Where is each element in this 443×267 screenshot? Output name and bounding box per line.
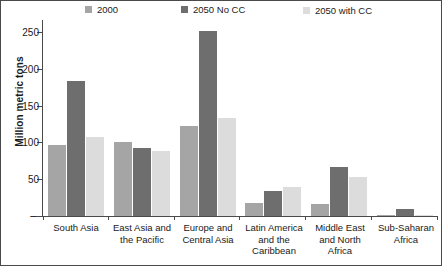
bar[interactable] bbox=[311, 204, 329, 216]
x-axis-label-4: Middle Eastand NorthAfrica bbox=[307, 222, 373, 266]
x-axis-label-5: Sub-SaharanAfrica bbox=[373, 222, 439, 266]
bar[interactable] bbox=[330, 167, 348, 216]
y-tick-label: 50 bbox=[28, 174, 39, 185]
legend-label-2050-no-cc: 2050 No CC bbox=[193, 4, 245, 15]
bar[interactable] bbox=[114, 142, 132, 216]
x-tick-mark bbox=[174, 216, 175, 220]
x-tick-mark bbox=[437, 216, 438, 220]
x-tick-mark bbox=[43, 216, 44, 220]
bar[interactable] bbox=[377, 215, 395, 216]
y-tick-label: 250 bbox=[22, 27, 39, 38]
legend-swatch-2000 bbox=[85, 6, 92, 13]
legend-swatch-2050-no-cc bbox=[181, 6, 188, 13]
bar[interactable] bbox=[133, 148, 151, 216]
bar[interactable] bbox=[86, 137, 104, 216]
bar-groups bbox=[43, 20, 438, 216]
x-tick-mark bbox=[371, 216, 372, 220]
legend-item-2050-with-cc[interactable]: 2050 with CC bbox=[303, 5, 372, 16]
bar-group bbox=[372, 20, 438, 216]
x-axis-label-3: Latin Americaand theCaribbean bbox=[241, 222, 307, 266]
bar-group bbox=[43, 20, 109, 216]
bar[interactable] bbox=[218, 118, 236, 216]
y-tick-label: 150 bbox=[22, 100, 39, 111]
bar[interactable] bbox=[67, 81, 85, 216]
bar[interactable] bbox=[283, 187, 301, 216]
bar[interactable] bbox=[396, 209, 414, 216]
bar-group bbox=[240, 20, 306, 216]
x-axis-labels: South AsiaEast Asia andthe PacificEurope… bbox=[43, 222, 439, 266]
plot-area: –50100150200250 bbox=[42, 20, 438, 217]
bar[interactable] bbox=[415, 215, 433, 216]
bar[interactable] bbox=[180, 126, 198, 217]
legend-item-2000[interactable]: 2000 bbox=[85, 4, 118, 15]
bar[interactable] bbox=[199, 31, 217, 216]
x-axis-label-1: East Asia andthe Pacific bbox=[109, 222, 175, 266]
bar[interactable] bbox=[245, 203, 263, 216]
legend-item-2050-no-cc[interactable]: 2050 No CC bbox=[181, 4, 245, 15]
y-tick-label: – bbox=[30, 209, 37, 223]
y-tick-label: 200 bbox=[22, 63, 39, 74]
x-tick-mark bbox=[305, 216, 306, 220]
bar[interactable] bbox=[264, 191, 282, 216]
bar[interactable] bbox=[48, 145, 66, 216]
legend-label-2000: 2000 bbox=[97, 4, 118, 15]
x-axis-label-0: South Asia bbox=[43, 222, 109, 266]
bar-group bbox=[306, 20, 372, 216]
y-tick-label: 100 bbox=[22, 137, 39, 148]
x-axis-label-2: Europe andCentral Asia bbox=[175, 222, 241, 266]
chart-legend: 2000 2050 No CC 2050 with CC bbox=[0, 2, 443, 18]
legend-swatch-2050-with-cc bbox=[303, 7, 310, 14]
bar-group bbox=[175, 20, 241, 216]
y-tick-mark bbox=[37, 216, 42, 217]
bar[interactable] bbox=[349, 177, 367, 216]
bar[interactable] bbox=[152, 151, 170, 216]
x-tick-mark bbox=[108, 216, 109, 220]
grouped-bar-chart: 2000 2050 No CC 2050 with CC Million met… bbox=[0, 0, 443, 267]
x-tick-mark bbox=[239, 216, 240, 220]
legend-label-2050-with-cc: 2050 with CC bbox=[315, 5, 372, 16]
bar-group bbox=[109, 20, 175, 216]
